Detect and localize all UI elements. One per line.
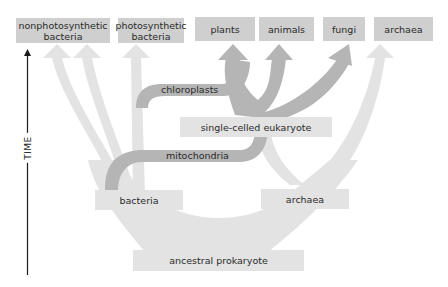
group-label-line1: nonphotosynthetic <box>18 20 107 31</box>
group-label-line2: bacteria <box>43 31 82 42</box>
group-plants: plants <box>195 17 255 41</box>
node-label: ancestral prokaryote <box>169 255 268 266</box>
chloroplasts-label: chloroplasts <box>161 84 218 95</box>
time-axis <box>0 0 448 287</box>
time-arrowhead-icon <box>24 49 31 56</box>
group-fungi: fungi <box>323 17 365 41</box>
node-bacteria: bacteria <box>95 190 183 210</box>
mitochondria-label: mitochondria <box>166 150 229 161</box>
group-label: archaea <box>384 24 422 35</box>
tree-of-life-diagram: TIME nonphotosynthetic bacteria photosyn… <box>0 0 448 287</box>
group-nonphotosynthetic-bacteria: nonphotosynthetic bacteria <box>16 18 110 43</box>
group-photosynthetic-bacteria: photosynthetic bacteria <box>118 18 184 43</box>
node-label: single-celled eukaryote <box>201 122 312 133</box>
group-label-line1: photosynthetic <box>115 20 186 31</box>
node-single-celled-eukaryote: single-celled eukaryote <box>180 117 332 137</box>
group-animals: animals <box>259 17 314 41</box>
group-label-line2: bacteria <box>131 31 170 42</box>
group-label: fungi <box>332 24 356 35</box>
time-axis-label: TIME <box>23 133 33 163</box>
node-archaea: archaea <box>261 189 349 209</box>
node-label: archaea <box>286 194 324 205</box>
node-label: bacteria <box>119 195 158 206</box>
group-label: animals <box>268 24 305 35</box>
node-ancestral-prokaryote: ancestral prokaryote <box>133 250 304 271</box>
group-label: plants <box>210 24 239 35</box>
group-archaea: archaea <box>374 17 433 41</box>
